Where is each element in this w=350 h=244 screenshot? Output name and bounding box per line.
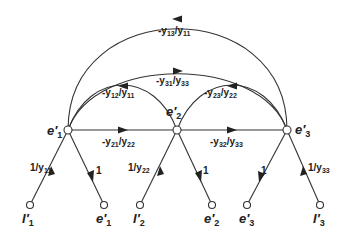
node-e1-out: [101, 202, 108, 209]
node-I3: [317, 202, 324, 209]
arrow-inv-y33: [300, 166, 307, 176]
label-node-e3p: e′3: [295, 123, 310, 139]
node-I2: [137, 202, 144, 209]
label-bottom-I3: I′3: [313, 212, 325, 228]
node-e2-out: [209, 202, 216, 209]
label-bottom-e3: e′3: [239, 212, 254, 228]
label-one-1: 1: [96, 166, 102, 176]
label-bottom-I2: I′2: [133, 212, 145, 228]
node-e3p: [283, 126, 291, 134]
label-one-2: 1: [203, 166, 209, 176]
label-bottom-e1: e′1: [96, 212, 111, 228]
arrow-y21: [118, 127, 128, 134]
node-I1: [27, 202, 34, 209]
label-node-e2p: e′2: [166, 105, 181, 121]
label-y31-y33: -y31/y33: [156, 76, 189, 87]
label-y23-y22: -y23/y22: [204, 88, 237, 99]
label-y21-y22: -y21/y22: [102, 137, 135, 148]
label-y12-y11: -y12/y11: [102, 88, 134, 99]
label-inv-y22: 1/y22: [128, 163, 150, 174]
label-one-3: 1: [261, 166, 267, 176]
label-y13-y11: -y13/y11: [158, 26, 190, 37]
node-e1p: [64, 126, 72, 134]
arrow-y32: [227, 127, 237, 134]
label-node-e1p: e′1: [47, 124, 62, 140]
edge-one-3: [247, 130, 287, 205]
label-inv-y33: 1/y33: [308, 163, 330, 174]
label-y32-y33: -y32/y33: [210, 137, 243, 148]
node-e3-out: [244, 202, 251, 209]
node-e2p: [173, 126, 181, 134]
arrow-y13: [172, 16, 182, 23]
label-bottom-I1: I′1: [22, 212, 34, 228]
label-bottom-e2: e′2: [204, 212, 219, 228]
label-inv-y11: 1/y11: [30, 163, 51, 174]
